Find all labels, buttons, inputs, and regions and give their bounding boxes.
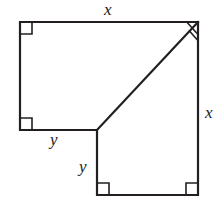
geometry-figure: x x y y: [0, 0, 224, 221]
figure-outline: [20, 22, 198, 195]
side-label-x-top: x: [104, 1, 112, 18]
side-label-y-lower: y: [79, 158, 87, 175]
top-left-angle-mark: [20, 22, 32, 34]
geometry-diagram: [0, 0, 224, 221]
side-label-y-left: y: [50, 131, 58, 148]
left-bottom-angle-mark: [20, 118, 32, 130]
lower-left-angle-mark: [97, 183, 109, 195]
lower-right-angle-mark: [186, 183, 198, 195]
side-label-x-right: x: [205, 104, 213, 121]
diagonal-line: [97, 22, 198, 130]
